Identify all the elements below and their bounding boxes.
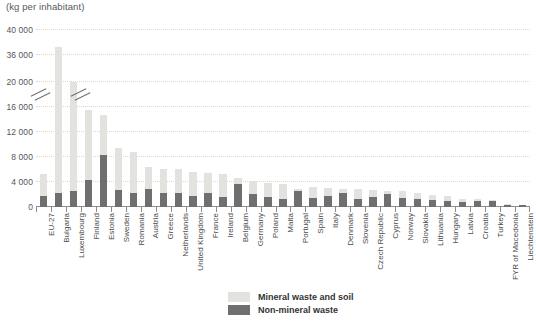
x-axis-tick	[485, 207, 486, 212]
legend-label-mineral: Mineral waste and soil	[258, 292, 354, 302]
bar-greece[interactable]	[160, 169, 167, 207]
bar-estonia[interactable]	[100, 115, 107, 207]
bar-spain[interactable]	[309, 187, 316, 207]
bar-luxembourg[interactable]	[70, 82, 77, 207]
x-axis-label-latvia: Latvia	[466, 213, 475, 235]
bar-slovenia[interactable]	[354, 189, 361, 207]
bar-segment-non-mineral	[249, 194, 256, 207]
bar-segment-mineral	[309, 187, 316, 197]
bar-denmark[interactable]	[339, 189, 346, 207]
bar-cyprus[interactable]	[384, 191, 391, 207]
bar-norway[interactable]	[399, 191, 406, 207]
x-axis-label-poland: Poland	[271, 213, 280, 238]
bar-finland[interactable]	[85, 110, 92, 207]
bar-segment-non-mineral	[115, 190, 122, 207]
bar-segment-mineral	[85, 110, 92, 179]
bar-poland[interactable]	[264, 183, 271, 207]
bar-segment-mineral	[175, 169, 182, 192]
x-axis-label-malta: Malta	[286, 213, 295, 233]
bar-segment-non-mineral	[324, 196, 331, 207]
bar-segment-non-mineral	[175, 193, 182, 207]
x-axis-tick	[395, 207, 396, 212]
x-axis-tick	[350, 207, 351, 212]
x-axis-tick	[455, 207, 456, 212]
plot-area	[36, 26, 530, 207]
bar-turkey[interactable]	[489, 200, 496, 207]
x-axis-tick	[425, 207, 426, 212]
bar-ireland[interactable]	[219, 174, 226, 207]
bar-czech-republic[interactable]	[369, 190, 376, 207]
y-axis-label-8000: 8 000	[11, 152, 33, 162]
bar-segment-mineral	[40, 174, 47, 196]
x-axis-label-bulgaria: Bulgaria	[62, 213, 71, 243]
chart-legend: Mineral waste and soil Non-mineral waste	[228, 292, 354, 318]
x-axis-label-slovenia: Slovenia	[361, 213, 370, 244]
x-axis-tick	[171, 207, 172, 212]
bar-france[interactable]	[204, 173, 211, 208]
x-axis-label-eu-27: EU-27	[47, 213, 56, 236]
x-axis-tick	[141, 207, 142, 212]
y-axis-label-4000: 4 000	[11, 177, 33, 187]
y-axis-label-36000: 36 000	[6, 50, 33, 60]
x-axis-tick	[51, 207, 52, 212]
bar-romania[interactable]	[130, 152, 137, 207]
x-axis-label-lithuania: Lithuania	[436, 213, 445, 246]
x-axis-tick	[96, 207, 97, 212]
bar-segment-mineral	[70, 82, 77, 191]
bar-malta[interactable]	[279, 184, 286, 207]
x-axis-label-germany: Germany	[256, 213, 265, 246]
x-axis-tick	[126, 207, 127, 212]
bar-segment-non-mineral	[100, 155, 107, 207]
bar-segment-non-mineral	[219, 197, 226, 207]
bar-netherlands[interactable]	[175, 169, 182, 207]
bar-sweden[interactable]	[115, 148, 122, 207]
bar-segment-mineral	[324, 188, 331, 196]
x-axis-tick	[156, 207, 157, 212]
bar-united-kingdom[interactable]	[189, 172, 196, 207]
bar-germany[interactable]	[249, 181, 256, 207]
bar-croatia[interactable]	[474, 199, 481, 207]
bar-belgium[interactable]	[234, 178, 241, 207]
bar-segment-non-mineral	[189, 196, 196, 207]
bar-series-group	[36, 26, 530, 207]
x-axis-label-romania: Romania	[137, 213, 146, 245]
bar-eu-27[interactable]	[40, 174, 47, 207]
bar-segment-non-mineral	[414, 199, 421, 207]
x-axis-tick	[365, 207, 366, 212]
x-axis-label-turkey: Turkey	[496, 213, 505, 237]
bar-portugal[interactable]	[294, 189, 301, 207]
legend-item-mineral: Mineral waste and soil	[228, 292, 354, 302]
bar-segment-non-mineral	[130, 193, 137, 207]
y-axis-label-16000: 16 000	[6, 102, 33, 112]
bar-latvia[interactable]	[459, 199, 466, 207]
x-axis-tick	[529, 207, 530, 212]
x-axis-tick	[66, 207, 67, 212]
x-axis-label-cyprus: Cyprus	[391, 213, 400, 239]
bar-segment-mineral	[145, 167, 152, 190]
x-axis-tick	[231, 207, 232, 212]
bar-segment-non-mineral	[399, 198, 406, 207]
mineral-swatch-icon	[228, 292, 250, 302]
bar-italy[interactable]	[324, 188, 331, 207]
bar-slovakia[interactable]	[414, 193, 421, 207]
x-axis-tick	[320, 207, 321, 212]
bar-bulgaria[interactable]	[55, 47, 62, 207]
bar-segment-non-mineral	[369, 197, 376, 207]
x-axis-tick	[305, 207, 306, 212]
bar-segment-non-mineral	[234, 184, 241, 207]
x-axis-label-estonia: Estonia	[107, 213, 116, 240]
bar-lithuania[interactable]	[429, 195, 436, 207]
y-axis-label-20000: 20 000	[6, 77, 33, 87]
x-axis-tick	[186, 207, 187, 212]
x-axis-tick	[470, 207, 471, 212]
bar-segment-non-mineral	[279, 199, 286, 207]
bar-segment-mineral	[279, 184, 286, 198]
bar-hungary[interactable]	[444, 196, 451, 207]
bar-austria[interactable]	[145, 167, 152, 207]
legend-item-non-mineral: Non-mineral waste	[228, 305, 354, 315]
bar-segment-non-mineral	[145, 189, 152, 207]
bar-segment-mineral	[115, 148, 122, 190]
x-axis-tick	[36, 207, 37, 212]
waste-generation-bar-chart: (kg per inhabitant) 40 00036 00020 00016…	[0, 0, 536, 324]
bar-segment-mineral	[130, 152, 137, 192]
